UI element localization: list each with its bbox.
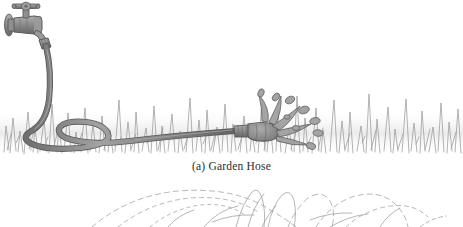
nozzle-collar <box>234 125 249 137</box>
faucet-flange <box>5 14 16 36</box>
faucet-spigot <box>5 2 52 49</box>
illustration-canvas <box>0 0 463 227</box>
next-figure-spray-arcs <box>92 190 446 227</box>
faucet-handle[interactable] <box>12 2 40 18</box>
figure-caption: (a) Garden Hose <box>0 160 463 172</box>
figure-garden-hose: (a) Garden Hose <box>0 0 463 227</box>
